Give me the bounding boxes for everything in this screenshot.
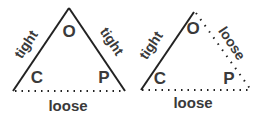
vertex-c: C	[154, 69, 166, 88]
vertex-c: C	[31, 68, 43, 87]
triangle-right: O C P tight loose loose	[136, 12, 252, 111]
vertex-p: P	[223, 69, 234, 88]
label-right-edge: tight	[97, 24, 127, 58]
triangle-diagrams: O C P tight tight loose O C P tight loos…	[0, 0, 264, 118]
vertex-o: O	[62, 22, 75, 41]
label-right-edge: loose	[215, 24, 249, 63]
label-bottom-edge: loose	[173, 94, 212, 111]
label-left-edge: tight	[136, 28, 166, 62]
vertex-p: P	[98, 68, 109, 87]
triangle-left: O C P tight tight loose	[11, 8, 128, 114]
vertex-o: O	[186, 19, 199, 38]
label-bottom-edge: loose	[48, 97, 87, 114]
